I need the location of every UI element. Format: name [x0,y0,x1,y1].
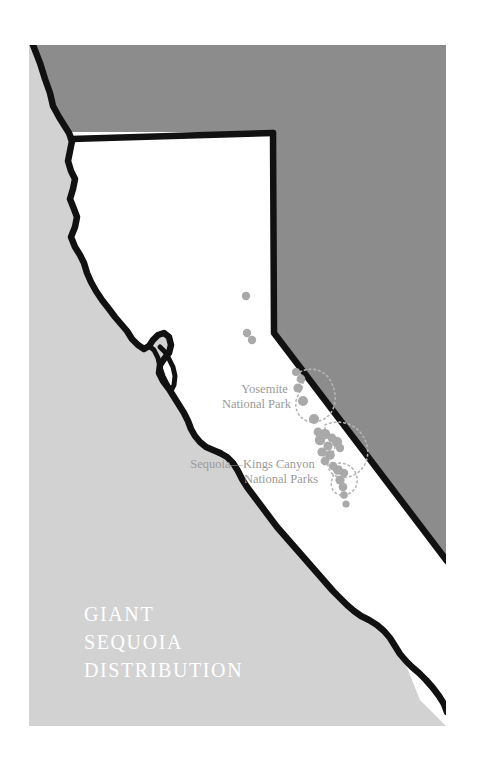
label-yosemite-line-1: Yosemite [241,382,288,396]
grove-dot [309,414,319,424]
label-yosemite-line-2: National Park [222,397,292,411]
map-title-line-1: GIANT [84,603,154,625]
grove-dot [297,375,306,384]
grove-dot [243,329,251,337]
grove-dot [336,444,344,452]
grove-dot [339,483,348,492]
grove-dot [298,396,308,406]
grove-dot [292,368,300,376]
giant-sequoia-distribution-map: Yosemite National Park Sequoia—Kings Can… [0,0,477,762]
map-title-line-2: SEQUOIA [84,631,182,653]
grove-dot [321,457,330,466]
map-canvas: Yosemite National Park Sequoia—Kings Can… [0,0,477,762]
label-sequoia-line-2: National Parks [244,472,318,486]
label-sequoia-line-1: Sequoia—Kings Canyon [190,457,315,471]
grove-dot [248,336,256,344]
map-panel: Yosemite National Park Sequoia—Kings Can… [29,45,447,726]
grove-dot [340,491,348,499]
grove-dot [315,435,325,445]
grove-dot [293,383,302,392]
grove-dot [342,500,349,507]
map-title-line-3: DISTRIBUTION [84,659,243,681]
grove-dot [242,292,250,300]
